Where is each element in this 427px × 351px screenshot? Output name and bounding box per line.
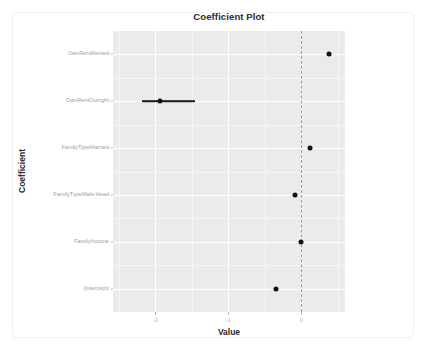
data-point xyxy=(326,52,331,57)
y-axis-tick-mark xyxy=(111,54,114,55)
gridline-horizontal-minor xyxy=(113,78,345,79)
gridline-horizontal-major xyxy=(113,195,345,196)
y-axis-tick-label: OwnRentOutright xyxy=(66,98,109,104)
y-axis-tick-mark xyxy=(111,148,114,149)
y-axis-tick-label: FamilyTypeMale Head xyxy=(53,192,109,198)
data-point xyxy=(293,192,298,197)
data-point xyxy=(299,239,304,244)
x-axis-tick-mark xyxy=(228,312,229,315)
zero-reference-line xyxy=(301,31,302,312)
y-axis-tick-labels: OwnRentRentedOwnRentOutrightFamilyTypeMa… xyxy=(33,31,109,312)
gridline-horizontal-minor xyxy=(113,125,345,126)
y-axis-tick-mark xyxy=(111,101,114,102)
data-point xyxy=(273,286,278,291)
plot-title: Coefficient Plot xyxy=(113,11,345,22)
y-axis-tick-label: FamilyTypeMarried xyxy=(61,145,109,151)
y-axis-tick-label: OwnRentRented xyxy=(68,52,109,58)
error-bar xyxy=(142,100,195,102)
y-axis-title: Coefficient xyxy=(17,149,27,193)
y-axis-tick-label: (Intercept) xyxy=(84,286,110,292)
coefficient-plot: Coefficient Plot OwnRentRentedOwnRentOut… xyxy=(0,0,427,351)
gridline-horizontal-minor xyxy=(113,265,345,266)
gridline-horizontal-major xyxy=(113,54,345,55)
x-axis-tick-mark xyxy=(301,312,302,315)
gridline-horizontal-minor xyxy=(113,218,345,219)
plot-panel xyxy=(113,31,345,312)
gridline-horizontal-major xyxy=(113,289,345,290)
x-axis-tick-label: 0 xyxy=(300,318,303,324)
x-axis-tick-label: -1 xyxy=(226,318,231,324)
y-axis-tick-label: FamilyIncome xyxy=(74,239,109,245)
gridline-horizontal-minor xyxy=(113,172,345,173)
x-axis-title: Value xyxy=(113,327,345,337)
gridline-horizontal-major xyxy=(113,242,345,243)
x-axis-tick-mark xyxy=(155,312,156,315)
y-axis-tick-mark xyxy=(111,241,114,242)
data-point xyxy=(307,146,312,151)
data-point xyxy=(158,99,163,104)
x-axis-tick-label: -2 xyxy=(153,318,158,324)
y-axis-tick-mark xyxy=(111,288,114,289)
y-axis-tick-mark xyxy=(111,194,114,195)
